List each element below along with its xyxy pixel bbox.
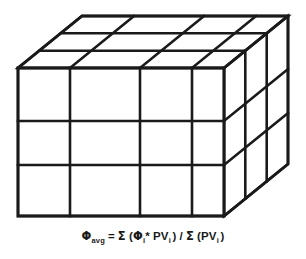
phi-avg-subscript: avg <box>91 236 105 245</box>
pv-denominator-label: PV <box>201 230 217 242</box>
asterisk-sign: * <box>145 230 150 242</box>
pv-numerator-label: PV <box>153 230 169 242</box>
sigma-denominator: Σ <box>186 229 194 243</box>
grid-block-cube-diagram <box>0 0 306 259</box>
divide-sign: / <box>180 230 183 242</box>
figure-root: Φavg=Σ(Φi*PVi)/Σ(PVi) <box>0 0 306 259</box>
pv-numerator-subscript: i <box>169 236 171 245</box>
cube-front-face <box>18 68 224 216</box>
sigma-numerator: Σ <box>118 229 126 243</box>
close-paren-numerator: ) <box>172 230 176 242</box>
porosity-average-formula: Φavg=Σ(Φi*PVi)/Σ(PVi) <box>0 229 306 243</box>
phi-i-symbol: Φ <box>133 229 143 243</box>
pv-denominator-subscript: i <box>217 236 219 245</box>
close-paren-denominator: ) <box>221 230 225 242</box>
equals-sign: = <box>108 230 115 242</box>
phi-avg-symbol: Φ <box>81 229 91 243</box>
